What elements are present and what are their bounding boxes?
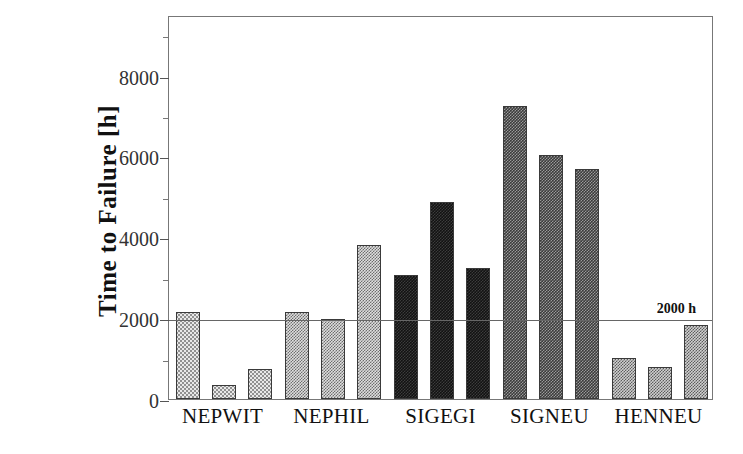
- bar: [357, 245, 381, 399]
- bar: [684, 325, 708, 399]
- y-axis-title: Time to Failure [h]: [94, 11, 122, 411]
- reference-line-label: 2000 h: [657, 301, 696, 320]
- bar: [212, 385, 236, 399]
- bar: [539, 155, 563, 399]
- bar: [176, 312, 200, 399]
- x-axis-label-signeu: SIGNEU: [510, 404, 589, 429]
- bar-chart: Time to Failure [h] 02000400060008000 20…: [0, 0, 743, 454]
- bar: [430, 202, 454, 399]
- bar: [575, 169, 599, 399]
- y-tick-major: [160, 239, 169, 240]
- bar: [394, 275, 418, 399]
- x-axis-label-henneu: HENNEU: [614, 404, 702, 429]
- y-tick-minor: [163, 37, 169, 38]
- bar: [321, 319, 345, 399]
- y-tick-label: 0: [149, 390, 159, 413]
- y-tick-minor: [163, 118, 169, 119]
- y-tick-major: [160, 320, 169, 321]
- bar: [612, 358, 636, 399]
- y-tick-label: 4000: [119, 228, 159, 251]
- y-tick-major: [160, 78, 169, 79]
- plot-area: 02000400060008000 2000 h: [168, 16, 713, 400]
- x-axis-label-nepwit: NEPWIT: [182, 404, 263, 429]
- y-tick-label: 8000: [119, 66, 159, 89]
- y-tick-minor: [163, 199, 169, 200]
- y-tick-minor: [163, 280, 169, 281]
- x-axis-label-nephil: NEPHIL: [293, 404, 369, 429]
- y-tick-minor: [163, 361, 169, 362]
- bar: [285, 312, 309, 399]
- bar: [466, 268, 490, 399]
- y-tick-label: 2000: [119, 309, 159, 332]
- y-tick-major: [160, 401, 169, 402]
- bar: [503, 106, 527, 399]
- bar: [648, 367, 672, 399]
- y-tick-major: [160, 158, 169, 159]
- x-axis-label-sigegi: SIGEGI: [405, 404, 476, 429]
- y-tick-label: 6000: [119, 147, 159, 170]
- bar: [248, 369, 272, 399]
- reference-line-2000h: [169, 320, 712, 321]
